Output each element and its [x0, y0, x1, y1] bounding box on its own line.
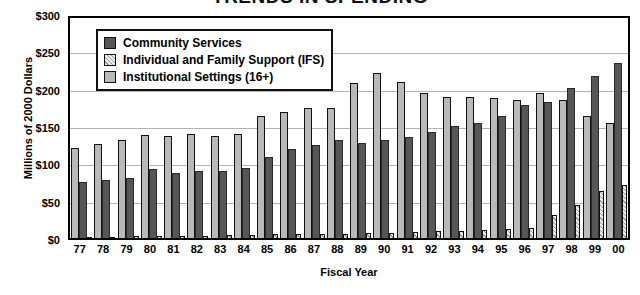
bar-comm	[335, 140, 343, 238]
bar-comm	[79, 182, 87, 238]
x-axis-tick: 90	[372, 243, 395, 261]
bar-comm	[172, 173, 180, 238]
bar-group	[489, 18, 512, 238]
bar-comm	[474, 123, 482, 238]
y-axis-tick: $0	[16, 234, 60, 246]
x-axis-tick: 94	[466, 243, 489, 261]
x-axis-tick: 99	[583, 243, 606, 261]
bar-inst	[304, 108, 312, 238]
bar-ifs	[203, 236, 208, 238]
legend-label: Individual and Family Support (IFS)	[123, 53, 324, 67]
x-axis-tick: 93	[443, 243, 466, 261]
bar-group	[396, 18, 419, 238]
bar-inst	[420, 93, 428, 238]
bar-comm	[428, 132, 436, 238]
x-axis-tick: 84	[232, 243, 255, 261]
bar-group	[442, 18, 465, 238]
x-axis-tick: 78	[91, 243, 114, 261]
bar-inst	[583, 116, 591, 238]
y-axis-tick: $100	[16, 159, 60, 171]
legend-swatch-institutional-icon	[104, 71, 116, 83]
x-axis-tick: 96	[513, 243, 536, 261]
bar-inst	[187, 134, 195, 238]
x-axis-tick: 88	[326, 243, 349, 261]
bar-ifs	[87, 237, 92, 238]
x-axis-tick: 98	[560, 243, 583, 261]
bar-comm	[126, 178, 134, 238]
bar-inst	[257, 116, 265, 238]
bar-inst	[211, 136, 219, 238]
bar-inst	[490, 98, 498, 238]
bar-comm	[288, 149, 296, 238]
bar-ifs	[273, 234, 278, 238]
bar-comm	[195, 171, 203, 238]
bar-comm	[614, 63, 622, 238]
legend-item: Individual and Family Support (IFS)	[104, 51, 324, 68]
bar-inst	[350, 83, 358, 238]
bar-inst	[466, 97, 474, 238]
bar-comm	[405, 137, 413, 238]
bar-ifs	[413, 232, 418, 238]
legend-label: Institutional Settings (16+)	[123, 70, 273, 84]
x-axis-tick: 79	[115, 243, 138, 261]
bar-group	[465, 18, 488, 238]
bar-inst	[443, 97, 451, 238]
bar-ifs	[482, 230, 487, 238]
x-axis-tick: 91	[396, 243, 419, 261]
x-axis-tick: 77	[68, 243, 91, 261]
legend-label: Community Services	[123, 36, 242, 50]
bar-group	[372, 18, 395, 238]
bar-comm	[544, 102, 552, 238]
bar-inst	[71, 148, 79, 238]
bar-ifs	[552, 215, 557, 238]
bar-ifs	[436, 231, 441, 238]
bar-group	[582, 18, 605, 238]
bar-inst	[397, 82, 405, 238]
chart-container: TRENDS IN SPENDING Millions of 2000 Doll…	[0, 0, 640, 295]
bar-group	[419, 18, 442, 238]
bar-inst	[141, 135, 149, 238]
legend-swatch-ifs-icon	[104, 54, 116, 66]
bar-ifs	[366, 233, 371, 238]
chart-legend: Community Services Individual and Family…	[96, 29, 333, 91]
x-axis-tick: 97	[536, 243, 559, 261]
bar-ifs	[320, 234, 325, 238]
bar-comm	[149, 169, 157, 238]
bar-ifs	[529, 228, 534, 238]
bar-inst	[536, 93, 544, 238]
x-axis-tick: 86	[279, 243, 302, 261]
bar-inst	[94, 144, 102, 238]
bar-comm	[102, 180, 110, 238]
bar-inst	[327, 108, 335, 238]
bar-inst	[164, 136, 172, 238]
bar-inst	[118, 140, 126, 238]
bar-comm	[242, 168, 250, 238]
bar-ifs	[622, 185, 627, 238]
x-axis-tick: 81	[162, 243, 185, 261]
bar-ifs	[575, 205, 580, 238]
legend-swatch-community-services-icon	[104, 37, 116, 49]
bar-group	[70, 18, 93, 238]
bar-comm	[498, 116, 506, 238]
bar-inst	[234, 134, 242, 238]
x-axis-tick: 00	[607, 243, 630, 261]
bar-comm	[219, 171, 227, 238]
bar-ifs	[134, 236, 139, 238]
bar-ifs	[110, 237, 115, 238]
bar-ifs	[296, 234, 301, 238]
bar-group	[535, 18, 558, 238]
bar-ifs	[180, 236, 185, 238]
y-axis-tick: $150	[16, 122, 60, 134]
bar-ifs	[506, 229, 511, 238]
bar-inst	[280, 112, 288, 238]
x-axis-tick: 92	[419, 243, 442, 261]
bar-comm	[451, 126, 459, 238]
y-axis-tick: $50	[16, 197, 60, 209]
x-axis-title: Fiscal Year	[68, 266, 630, 278]
bar-group	[605, 18, 628, 238]
bar-comm	[521, 105, 529, 238]
bar-comm	[381, 140, 389, 238]
legend-item: Community Services	[104, 34, 324, 51]
bar-inst	[373, 73, 381, 238]
bar-group	[349, 18, 372, 238]
